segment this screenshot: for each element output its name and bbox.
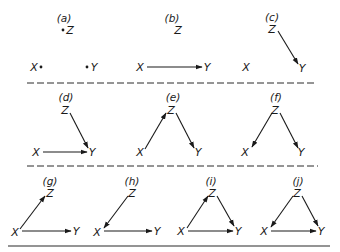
node-z: Z xyxy=(292,187,301,200)
panels: (a)ZXY(b)ZXY(c)ZXY(d)ZXY(e)ZXY(f)ZXY(g)Z… xyxy=(10,11,325,239)
panel-label: (j) xyxy=(292,175,303,187)
node-y: Y xyxy=(204,61,212,74)
panel-d: (d)ZXY xyxy=(31,91,96,159)
arrow-z-to-y xyxy=(217,196,234,226)
node-z: Z xyxy=(127,187,136,200)
arrow-z-to-x xyxy=(104,196,128,228)
panel-label: (b) xyxy=(165,12,180,24)
panel-a: (a)ZXY xyxy=(29,12,98,74)
node-z: Z xyxy=(166,104,175,117)
node-y: Y xyxy=(195,146,203,159)
panel-i: (i)ZXY xyxy=(176,175,242,238)
node-z: Z xyxy=(207,187,216,200)
panel-label: (a) xyxy=(57,12,72,24)
panel-g: (g)ZXY xyxy=(10,175,80,239)
node-y: Y xyxy=(73,225,81,238)
arrow-x-to-z xyxy=(187,196,208,228)
causal-diagram-figure: (a)ZXY(b)ZXY(c)ZXY(d)ZXY(e)ZXY(f)ZXY(g)Z… xyxy=(0,0,340,252)
arrow-x-to-z xyxy=(145,113,166,149)
arrow-z-to-y xyxy=(176,113,194,148)
node-x: X xyxy=(31,146,40,159)
panel-j: (j)ZXY xyxy=(259,175,325,238)
node-y: Y xyxy=(318,225,326,238)
node-x: X xyxy=(259,225,268,238)
panel-c: (c)ZXY xyxy=(241,11,306,75)
node-x: X xyxy=(241,61,250,74)
node-y: Y xyxy=(235,225,243,238)
node-y: Y xyxy=(91,61,99,74)
node-z: Z xyxy=(270,104,279,117)
node-z: Z xyxy=(173,24,182,37)
node-y: Y xyxy=(298,146,306,159)
arrow-z-to-y xyxy=(280,113,298,148)
node-z: Z xyxy=(45,187,54,200)
panel-b: (b)ZXY xyxy=(135,12,211,74)
panel-label: (f) xyxy=(270,91,282,103)
panel-label: (e) xyxy=(166,91,181,103)
node-x: X xyxy=(240,146,249,159)
node-dot-icon xyxy=(62,29,65,32)
node-x: X xyxy=(92,226,101,239)
node-dot-icon xyxy=(40,66,43,69)
node-x: X xyxy=(29,61,38,74)
node-x: X xyxy=(135,146,144,159)
node-z: Z xyxy=(65,24,74,37)
panel-f: (f)ZXY xyxy=(240,91,305,159)
node-y: Y xyxy=(299,62,307,75)
panel-e: (e)ZXY xyxy=(135,91,202,159)
node-dot-icon xyxy=(86,66,89,69)
panel-label: (h) xyxy=(125,175,140,187)
node-y: Y xyxy=(89,146,97,159)
node-z: Z xyxy=(60,104,69,117)
panel-label: (i) xyxy=(205,175,216,187)
arrow-z-to-x xyxy=(271,196,293,227)
arrow-x-to-z xyxy=(20,196,45,229)
arrow-z-to-x xyxy=(252,113,272,147)
arrow-z-to-y xyxy=(302,196,318,226)
panel-label: (g) xyxy=(43,175,58,187)
panel-h: (h)ZXY xyxy=(92,175,161,239)
node-x: X xyxy=(10,226,19,239)
node-z: Z xyxy=(267,23,276,36)
node-x: X xyxy=(135,61,144,74)
arrow-z-to-y xyxy=(70,113,88,148)
node-x: X xyxy=(176,225,185,238)
panel-label: (d) xyxy=(59,91,74,103)
arrow-z-to-y xyxy=(278,31,298,64)
node-y: Y xyxy=(154,225,162,238)
panel-label: (c) xyxy=(265,11,279,23)
